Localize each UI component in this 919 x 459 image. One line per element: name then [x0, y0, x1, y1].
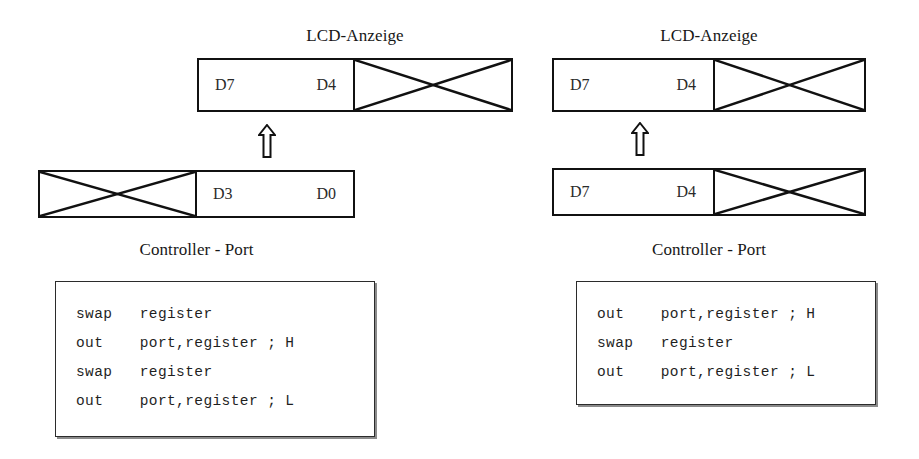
bit-label-high: D7 — [570, 183, 590, 201]
bit-label-low: D0 — [316, 185, 336, 203]
lcd-box-left-half-left: D7 D4 — [199, 60, 355, 110]
bit-label-low: D4 — [676, 76, 696, 94]
port-box-left-half-crossed — [40, 172, 197, 216]
controller-port-caption-left: Controller - Port — [38, 240, 355, 260]
port-box-right-half-left: D7 D4 — [554, 170, 715, 214]
up-arrow-icon — [631, 122, 649, 156]
code-line: out port,register ; L — [76, 387, 366, 416]
bit-label-high: D3 — [213, 185, 233, 203]
cross-out-icon — [715, 170, 864, 214]
cross-out-icon — [715, 60, 864, 110]
port-box-right-half-right-crossed — [715, 170, 864, 214]
up-arrow-icon — [258, 124, 276, 158]
code-line: swap register — [76, 358, 366, 387]
lcd-box-right-half-right-crossed — [715, 60, 864, 110]
data-flow-arrow-left — [258, 124, 276, 158]
lcd-box-left-half-right-crossed — [355, 60, 511, 110]
diagram-canvas: LCD-Anzeige D7 D4 D3 D0 Control — [0, 0, 919, 459]
bit-label-low: D4 — [316, 76, 336, 94]
port-box-right-half: D3 D0 — [197, 172, 353, 216]
code-line: swap register — [597, 329, 867, 358]
code-lines-left: swap register out port,register ; H swap… — [76, 300, 366, 416]
code-line: out port,register ; L — [597, 358, 867, 387]
code-line: out port,register ; H — [76, 329, 366, 358]
lcd-display-box-right: D7 D4 — [552, 58, 866, 112]
lcd-caption-left: LCD-Anzeige — [197, 26, 513, 46]
bit-label-low: D4 — [676, 183, 696, 201]
code-block-right: out port,register ; H swap register out … — [576, 281, 876, 405]
controller-port-caption-right: Controller - Port — [552, 240, 866, 260]
code-line: swap register — [76, 300, 366, 329]
code-lines-right: out port,register ; H swap register out … — [597, 300, 867, 387]
bit-label-high: D7 — [215, 76, 235, 94]
code-block-left: swap register out port,register ; H swap… — [55, 281, 375, 437]
lcd-caption-right: LCD-Anzeige — [552, 26, 866, 46]
code-line: out port,register ; H — [597, 300, 867, 329]
controller-port-box-right: D7 D4 — [552, 168, 866, 216]
lcd-display-box-left: D7 D4 — [197, 58, 513, 112]
controller-port-box-left: D3 D0 — [38, 170, 355, 218]
cross-out-icon — [40, 172, 195, 216]
lcd-box-right-half-left: D7 D4 — [554, 60, 715, 110]
cross-out-icon — [355, 60, 511, 110]
bit-label-high: D7 — [570, 76, 590, 94]
data-flow-arrow-right — [631, 122, 649, 156]
